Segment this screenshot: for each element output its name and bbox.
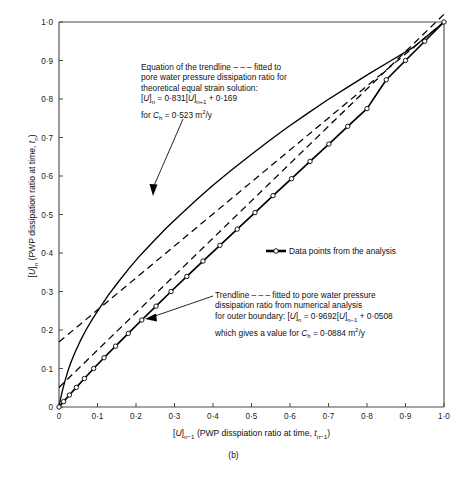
annotation-outer-line-3: for outer boundary: [U]n = 0·9692[U]n−1 … bbox=[215, 311, 393, 325]
data-point-marker bbox=[154, 304, 158, 308]
arrowhead-theory bbox=[150, 184, 158, 196]
data-point-marker bbox=[384, 78, 388, 82]
x-tick-label: 0·4 bbox=[207, 412, 219, 421]
leader-theory-annotation bbox=[150, 119, 184, 196]
data-point-marker bbox=[185, 274, 189, 278]
y-tick-label: 0·6 bbox=[41, 172, 53, 181]
x-axis-title: [U]n−1 (PWP disspiation ratio at time, t… bbox=[59, 428, 444, 440]
y-tick-label: 0·1 bbox=[41, 365, 53, 374]
x-tick-label: 0·1 bbox=[92, 412, 104, 421]
x-tick-label: 0·9 bbox=[400, 412, 412, 421]
annotation-theory-line-1: Equation of the trendline – – – fitted t… bbox=[141, 62, 287, 72]
data-point-marker bbox=[365, 106, 369, 110]
legend-marker bbox=[266, 249, 286, 254]
figure-panel: 00·10·20·30·40·50·60·70·80·91·0 00·10·20… bbox=[0, 0, 467, 477]
annotation-outer-line-1: Trendline – – – fitted to pore water pre… bbox=[215, 290, 393, 300]
leader-outer-annotation bbox=[145, 296, 213, 322]
figure-caption: (b) bbox=[0, 450, 467, 460]
data-point-marker bbox=[140, 318, 144, 322]
y-tick-label: 0·9 bbox=[41, 57, 53, 66]
x-tick-label: 0·8 bbox=[361, 412, 373, 421]
y-axis-ticks: 00·10·20·30·40·50·60·70·80·91·0 bbox=[41, 18, 63, 412]
data-point-marker bbox=[403, 58, 407, 62]
x-tick-label: 1·0 bbox=[438, 412, 450, 421]
data-point-marker bbox=[235, 227, 239, 231]
data-point-marker bbox=[102, 356, 106, 360]
annotation-theory-line-2: pore water pressure dissipation ratio fo… bbox=[141, 72, 287, 82]
data-point-marker bbox=[113, 344, 117, 348]
data-point-marker bbox=[289, 177, 293, 181]
data-point-marker bbox=[271, 193, 275, 197]
x-tick-label: 0·7 bbox=[323, 412, 335, 421]
x-tick-label: 0·6 bbox=[284, 412, 296, 421]
y-tick-label: 0·7 bbox=[41, 134, 53, 143]
data-point-marker bbox=[253, 210, 257, 214]
y-tick-label: 1·0 bbox=[41, 18, 53, 27]
y-tick-label: 0·3 bbox=[41, 288, 53, 297]
data-point-marker bbox=[169, 289, 173, 293]
annotation-outer-line-2: dissipation ratio from numerical analysi… bbox=[215, 300, 393, 310]
data-point-marker bbox=[61, 399, 65, 403]
data-point-marker bbox=[91, 366, 95, 370]
annotation-theory-line-4: [U]n = 0·831[U]n+1 + 0·169 bbox=[141, 93, 287, 107]
annotation-outer-line-4: which gives a value for Ch = 0·0884 m2/y bbox=[215, 325, 393, 342]
data-point-marker bbox=[57, 405, 61, 409]
x-tick-label: 0 bbox=[57, 412, 62, 421]
data-point-marker bbox=[327, 142, 331, 146]
annotation-outer-boundary-trendline: Trendline – – – fitted to pore water pre… bbox=[215, 290, 393, 342]
data-point-marker bbox=[82, 376, 86, 380]
data-point-marker bbox=[218, 243, 222, 247]
x-tick-label: 0·2 bbox=[130, 412, 142, 421]
legend-label-data-points: Data points from the analysis bbox=[289, 246, 396, 256]
data-point-marker bbox=[308, 159, 312, 163]
y-axis-title: [U]n (PWP dissipation ratio at time, tn) bbox=[27, 96, 39, 316]
y-tick-label: 0·8 bbox=[41, 95, 53, 104]
y-tick-label: 0·4 bbox=[41, 249, 53, 258]
data-point-marker bbox=[442, 20, 446, 24]
data-point-marker bbox=[201, 259, 205, 263]
annotation-theory-line-5: for Ch = 0·523 m2/y bbox=[141, 107, 287, 124]
x-tick-label: 0·3 bbox=[169, 412, 181, 421]
annotation-theory-line-3: theoretical equal strain solution: bbox=[141, 83, 287, 93]
x-axis-ticks: 00·10·20·30·40·50·60·70·80·91·0 bbox=[57, 403, 451, 421]
y-tick-label: 0 bbox=[48, 403, 53, 412]
data-point-marker bbox=[67, 393, 71, 397]
y-tick-label: 0·2 bbox=[41, 326, 53, 335]
data-point-marker bbox=[74, 385, 78, 389]
x-tick-label: 0·5 bbox=[246, 412, 258, 421]
data-point-marker bbox=[126, 331, 130, 335]
y-tick-label: 0·5 bbox=[41, 211, 53, 220]
data-point-marker bbox=[423, 39, 427, 43]
annotation-theoretical-trendline: Equation of the trendline – – – fitted t… bbox=[141, 62, 287, 124]
data-point-marker bbox=[346, 124, 350, 128]
